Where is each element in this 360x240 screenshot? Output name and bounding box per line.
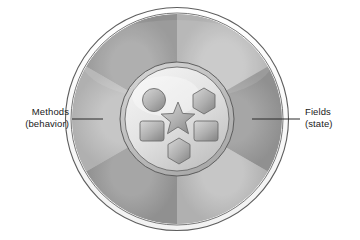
field-rect-right-icon — [194, 121, 218, 141]
field-circle-icon — [143, 89, 166, 112]
field-rect-left-icon — [140, 121, 164, 141]
diagram-canvas: Methods (behavior) Fields (state) — [0, 0, 360, 240]
object-diagram: Methods (behavior) Fields (state) — [0, 0, 360, 240]
label-fields-line1: Fields — [305, 106, 331, 117]
label-methods-line1: Methods — [32, 106, 69, 117]
label-methods-line2: (behavior) — [25, 118, 69, 129]
label-fields-line2: (state) — [305, 118, 333, 129]
